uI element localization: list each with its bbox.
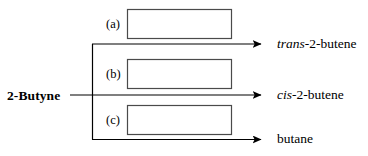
- product-label-cis-2-butene: cis-2-butene: [277, 88, 344, 102]
- reaction-scheme-diagram: 2-Butyne (a) (b) (c) trans-2-butene cis-…: [0, 0, 368, 156]
- reactant-label: 2-Butyne: [7, 89, 60, 103]
- reagent-box-key-a: (a): [106, 18, 120, 31]
- reagent-box-key-b: (b): [106, 68, 121, 81]
- product-suffix-butane: butane: [277, 131, 313, 146]
- product-suffix-cis: -2-butene: [292, 87, 344, 102]
- reagent-box-c[interactable]: [128, 106, 232, 135]
- reagent-box-a[interactable]: [128, 10, 232, 39]
- reagent-box-key-c: (c): [106, 114, 120, 127]
- product-suffix-trans: -2-butene: [305, 36, 357, 51]
- product-prefix-trans: trans: [277, 36, 305, 51]
- reagent-box-b[interactable]: [128, 60, 232, 89]
- product-label-trans-2-butene: trans-2-butene: [277, 37, 357, 51]
- product-prefix-cis: cis: [277, 87, 292, 102]
- product-label-butane: butane: [277, 132, 313, 146]
